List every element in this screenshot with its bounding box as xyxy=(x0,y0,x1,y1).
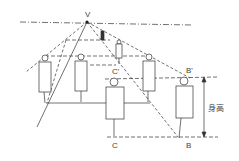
figure-front-right xyxy=(176,77,193,138)
vanishing-point xyxy=(85,20,88,23)
label-v: V xyxy=(85,11,90,19)
label-b-top: B' xyxy=(186,67,193,75)
horizon-line xyxy=(20,22,192,25)
figure-small xyxy=(116,40,122,64)
label-c-top: C' xyxy=(112,68,119,76)
label-height: 身高 xyxy=(208,105,224,113)
figure-far-left xyxy=(39,55,51,103)
figure-front-center xyxy=(106,78,124,136)
perspective-diagram: V B' B C' C 身高 xyxy=(0,0,239,161)
figure-mid-left xyxy=(75,54,87,102)
label-c-bottom: C xyxy=(112,142,118,150)
figure-tiny xyxy=(101,31,104,40)
label-b-bottom: B xyxy=(186,142,191,150)
diagram-lines xyxy=(0,0,239,161)
